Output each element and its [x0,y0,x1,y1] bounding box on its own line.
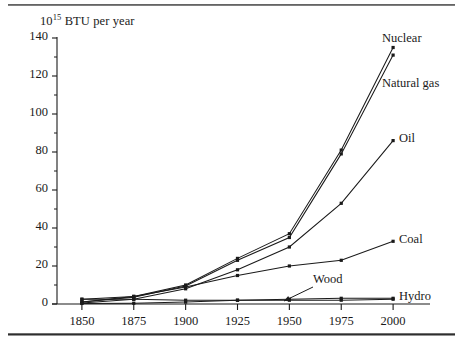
x-tick-label: 1900 [162,314,210,329]
x-tick-label: 1975 [317,314,365,329]
data-point-marker [236,274,239,277]
y-tick-label: 140 [14,29,48,44]
data-point-marker [80,298,83,301]
y-tick-label: 0 [14,295,48,310]
y-tick-label: 100 [14,105,48,120]
data-point-marker [340,259,343,262]
series-label-wood: Wood [313,272,343,287]
data-point-marker [132,295,135,298]
series-line-nuclear [82,48,393,303]
y-tick-label: 40 [14,219,48,234]
data-point-marker [184,285,187,288]
y-tick-label: 20 [14,257,48,272]
data-point-marker [236,259,239,262]
x-tick-label: 1850 [58,314,106,329]
data-point-marker [132,302,135,305]
data-point-marker [80,302,83,305]
series-label-nuclear: Nuclear [382,31,422,46]
series-label-hydro: Hydro [399,289,431,304]
series-label-coal: Coal [399,232,423,247]
x-tick-label: 1875 [110,314,158,329]
axes-group [52,37,430,310]
data-point-marker [392,297,395,300]
data-point-marker [392,139,395,142]
data-point-marker [132,298,135,301]
y-tick-label: 60 [14,181,48,196]
series-line-natural-gas [82,55,393,302]
data-point-marker [340,202,343,205]
y-tick-label: 80 [14,143,48,158]
line-chart-plot [0,0,463,348]
x-tick-label: 1925 [214,314,262,329]
data-point-marker [236,299,239,302]
data-point-marker [392,54,395,57]
data-point-marker [288,236,291,239]
data-point-marker [340,152,343,155]
data-point-marker [288,245,291,248]
series-label-oil: Oil [399,131,415,146]
data-point-marker [288,264,291,267]
data-point-marker [184,301,187,304]
x-tick-label: 2000 [369,314,417,329]
y-tick-label: 120 [14,67,48,82]
data-point-marker [392,46,395,49]
data-point-marker [392,240,395,243]
data-point-marker [236,268,239,271]
data-point-marker [340,297,343,300]
figure-container: 1015 BTU per year 020406080100120140 185… [0,0,463,348]
data-series-group [80,46,394,305]
series-line-oil [82,141,393,303]
x-tick-label: 1950 [265,314,313,329]
series-label-natural-gas: Natural gas [382,76,439,91]
